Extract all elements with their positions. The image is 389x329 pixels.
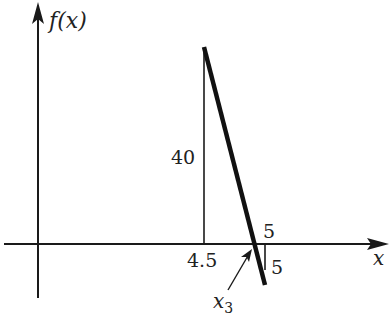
root-label: x3 bbox=[213, 289, 233, 316]
root-pointer bbox=[228, 249, 252, 290]
x-end-top-label: 5 bbox=[263, 220, 275, 242]
x-axis-label: x bbox=[373, 246, 384, 270]
x-start-label: 4.5 bbox=[187, 249, 217, 271]
function-diagram: f(x) x 40 4.5 5 5 x3 bbox=[0, 0, 389, 329]
pointer-arrow-icon bbox=[241, 249, 252, 262]
height-label: 40 bbox=[171, 146, 195, 168]
y-axis bbox=[32, 2, 44, 298]
x-end-side-label: 5 bbox=[271, 256, 283, 278]
y-axis-label: f(x) bbox=[47, 8, 87, 33]
